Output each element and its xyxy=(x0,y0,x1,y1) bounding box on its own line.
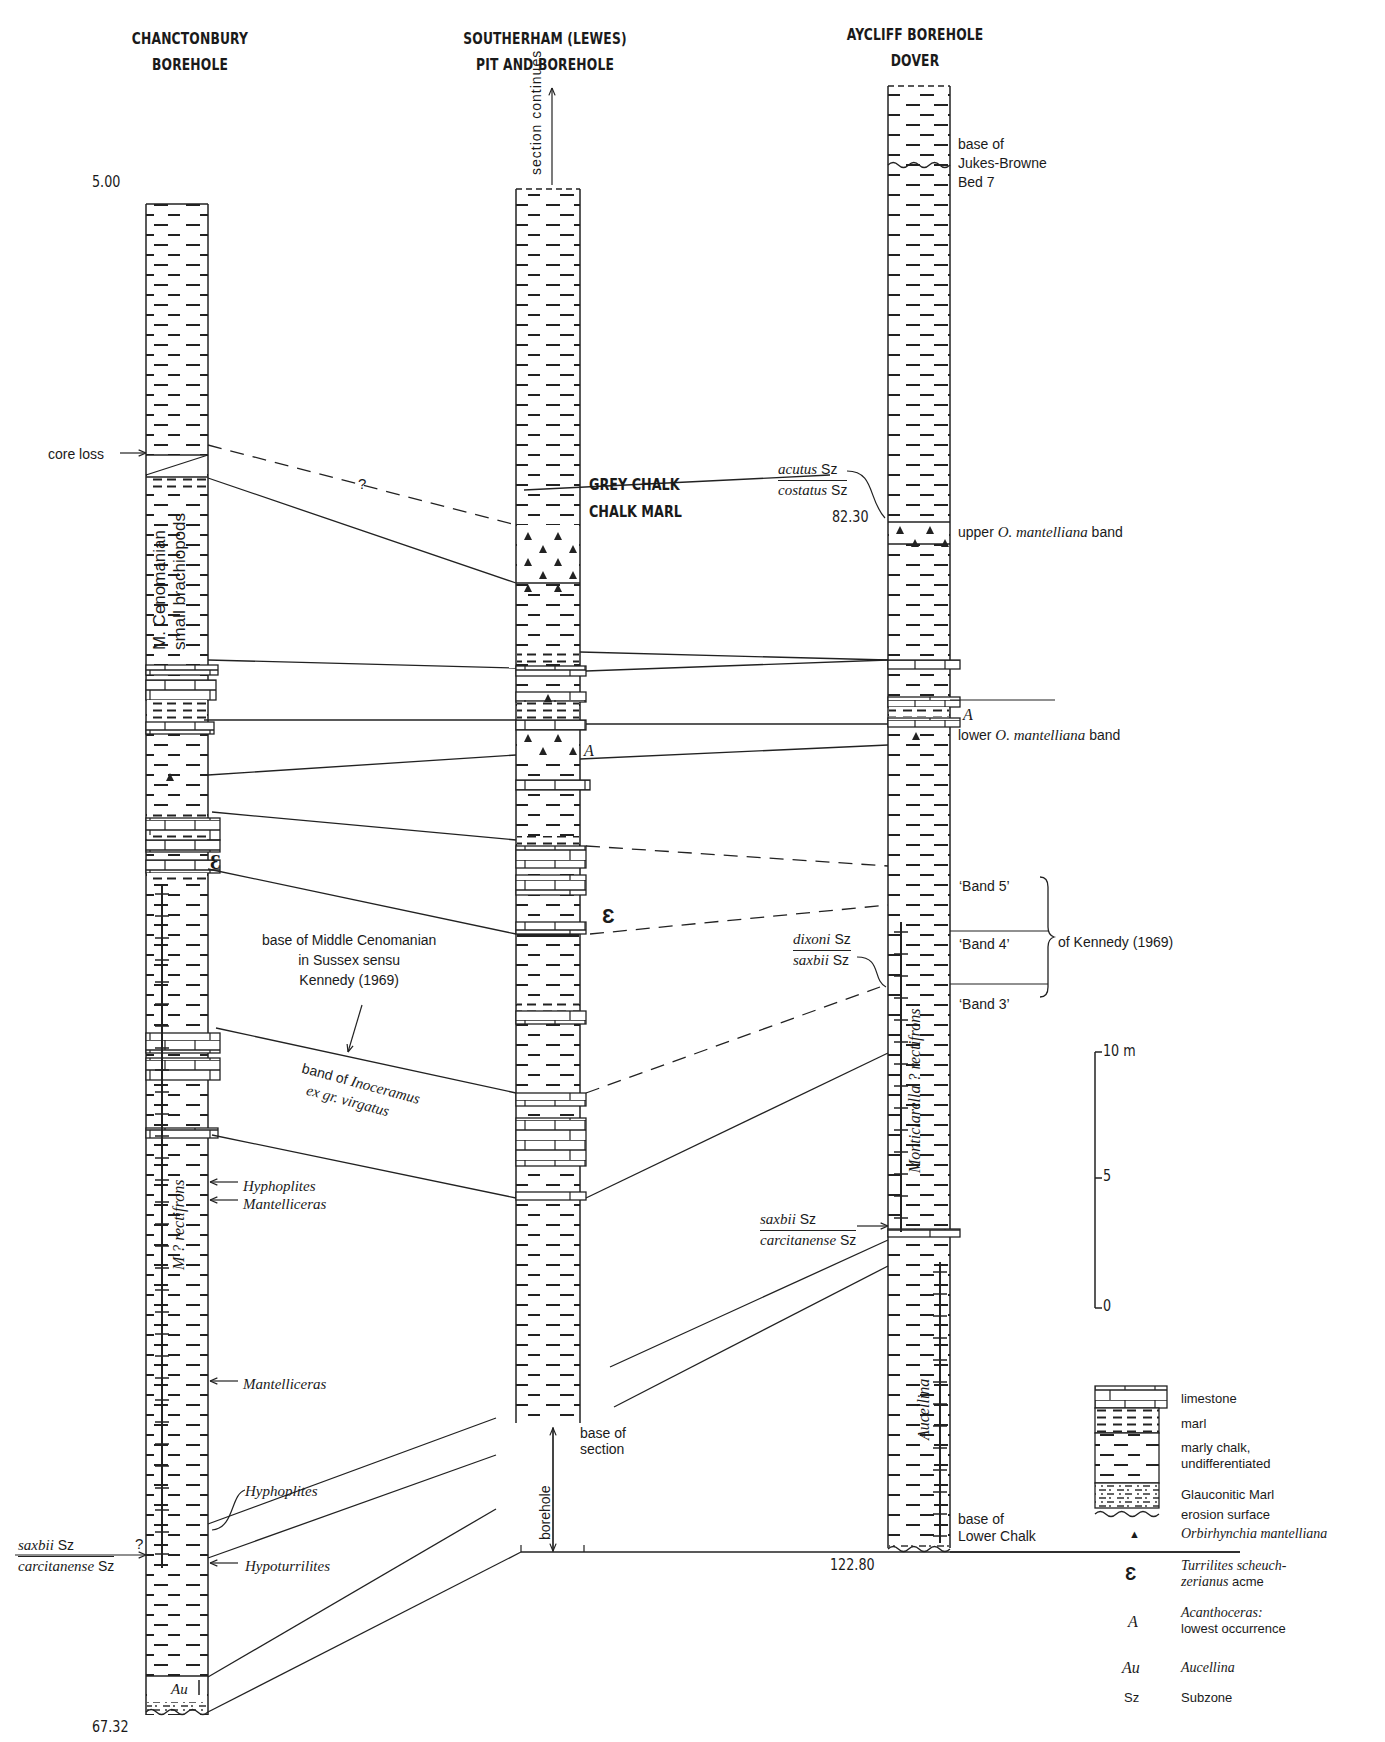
depth-base-chanctonbury: 67.32 xyxy=(92,1718,129,1736)
subzone-acutus-costatus: acutus Sz costatus Sz xyxy=(778,460,847,500)
middle-cenomanian-line xyxy=(208,869,516,934)
correlation-line xyxy=(580,745,888,759)
limestone-bed xyxy=(146,840,220,852)
label-line: Lower Chalk xyxy=(958,1528,1036,1545)
middle-cenomanian-arrow xyxy=(348,1005,362,1052)
depth-marker-aycliff: 82.30 xyxy=(832,508,869,526)
legend-text: undifferentiated xyxy=(1181,1456,1270,1472)
jukes-browne-label: base of Jukes-Browne Bed 7 xyxy=(958,135,1047,192)
taxon-hyphoplites: Hyphoplites xyxy=(243,1177,316,1195)
subzone-name: dixoni xyxy=(793,931,831,947)
acanthoceras-marker-southerham: A xyxy=(584,742,594,760)
legend-orbirhynchia: Orbirhynchia mantelliana xyxy=(1181,1526,1327,1542)
scale-5: 5 xyxy=(1103,1167,1111,1185)
band-5-label: ‘Band 5’ xyxy=(959,877,1010,895)
base-lower-chalk-label: base of Lower Chalk xyxy=(958,1511,1036,1545)
dixoni-curve xyxy=(857,957,886,987)
limestone-bed xyxy=(146,1058,220,1080)
subzone-abbr: Sz xyxy=(827,482,847,498)
legend-erosion-surface: erosion surface xyxy=(1181,1507,1270,1523)
section-continues-label: section continues xyxy=(528,50,544,175)
legend-text: acme xyxy=(1228,1574,1263,1589)
hyphoplites-curve xyxy=(212,1490,245,1530)
label-line: Kennedy (1969) xyxy=(262,970,436,990)
label-text: band xyxy=(1085,727,1120,743)
limestone-bed xyxy=(516,846,586,868)
legend-text: lowest occurrence xyxy=(1181,1621,1286,1637)
depth-base-aycliff: 122.80 xyxy=(830,1556,875,1574)
correlation-line xyxy=(610,1240,888,1367)
label-text: lower xyxy=(958,727,995,743)
correlation-line xyxy=(208,1509,496,1677)
legend-marl: marl xyxy=(1181,1416,1206,1432)
erosion-surface-swatch xyxy=(1095,1512,1159,1517)
scale-10m: 10 m xyxy=(1103,1042,1136,1060)
correlation-line xyxy=(614,1266,888,1407)
column-southerham xyxy=(516,189,580,1423)
turrilites-marker-chanct: Ɛ xyxy=(210,853,221,871)
subzone-name: acutus xyxy=(778,461,817,477)
glauconitic-marl-swatch xyxy=(1095,1483,1159,1508)
formation-chalk-marl: CHALK MARL xyxy=(589,503,682,521)
limestone-bed xyxy=(146,1033,220,1053)
subzone-name: carcitanense xyxy=(18,1558,94,1574)
marly-chalk-swatch xyxy=(1095,1433,1159,1483)
depth-top-chanctonbury: 5.00 xyxy=(92,173,120,191)
base-of-section-label: base of section xyxy=(580,1425,650,1457)
limestone-bed xyxy=(516,875,586,895)
subzone-abbr: Sz xyxy=(94,1558,114,1574)
taxon-hypoturrilites: Hypoturrilites xyxy=(245,1557,330,1575)
subzone-abbr: Sz xyxy=(796,1211,816,1227)
turrilites-icon: Ɛ xyxy=(1125,1566,1136,1582)
band-4-label: ‘Band 4’ xyxy=(959,935,1010,953)
label-line: Jukes-Browne xyxy=(958,154,1047,173)
correlation-line xyxy=(580,652,888,660)
legend-limestone: limestone xyxy=(1181,1391,1237,1407)
marl-bed xyxy=(147,700,207,722)
aucellina-range-label: Aucellina xyxy=(915,1379,933,1440)
acanthoceras-icon: A xyxy=(1128,1614,1138,1630)
limestone-swatch xyxy=(1095,1386,1167,1408)
limestone-bed xyxy=(146,860,220,873)
marl-bed xyxy=(517,702,579,720)
query-saxbii: ? xyxy=(135,1535,143,1553)
correlation-line xyxy=(586,987,880,1093)
legend-subzone: Subzone xyxy=(1181,1690,1232,1706)
marl-swatch xyxy=(1095,1408,1159,1433)
taxon-mantelliceras-lower: Mantelliceras xyxy=(243,1375,326,1393)
subzone-name: saxbii xyxy=(18,1537,54,1553)
legend-text: marly chalk, xyxy=(1181,1440,1270,1456)
subzone-dixoni-saxbii: dixoni Sz saxbii Sz xyxy=(793,930,851,970)
subzone-name: carcitanense xyxy=(760,1232,836,1248)
label-line: base of xyxy=(958,135,1047,154)
glauconitic-marl-bed xyxy=(147,1702,207,1712)
marl-bed xyxy=(517,1003,579,1011)
limestone-bed xyxy=(516,1011,586,1024)
legend-text: Turrilites scheuch- xyxy=(1181,1558,1286,1574)
taxon-hyphoplites-lower: Hyphoplites xyxy=(245,1482,318,1500)
subzone-abbr: Sz xyxy=(54,1537,74,1553)
subzone-saxbii-carcitanense-aycliff: saxbii Sz carcitanense Sz xyxy=(760,1210,856,1250)
label-line: in Sussex sensu xyxy=(262,950,436,970)
limestone-bed xyxy=(146,665,218,675)
of-kennedy-label: of Kennedy (1969) xyxy=(1058,933,1173,951)
correlation-line xyxy=(208,660,516,668)
correlation-line xyxy=(208,755,516,775)
subzone-abbr: Sz xyxy=(817,461,837,477)
monticlarella-range-label: Monticlarella ? rectifrons xyxy=(906,1009,924,1173)
limestone-bed xyxy=(888,697,960,707)
label-line: base of xyxy=(958,1511,1036,1528)
m-cenomanian-brachiopods-label: M. Cenomanian small brachiopods xyxy=(150,513,190,650)
legend-text: zerianus xyxy=(1181,1574,1228,1589)
subzone-name: saxbii xyxy=(793,952,829,968)
limestone-bed xyxy=(516,666,586,676)
limestone-bed xyxy=(888,718,960,727)
label-line: small brachiopods xyxy=(170,513,190,650)
legend-text: Acanthoceras: xyxy=(1181,1605,1286,1621)
marl-bed xyxy=(517,934,579,937)
legend-aucellina: Aucellina xyxy=(1181,1660,1235,1676)
aucellina-marker: Au xyxy=(171,1680,188,1698)
triangle-icon: ▲ xyxy=(1129,1526,1140,1542)
core-loss-label: core loss xyxy=(48,445,104,463)
subzone-abbr-icon: Sz xyxy=(1124,1690,1139,1706)
